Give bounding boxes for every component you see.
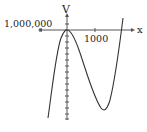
chart: V x 1,000,000 1000 [0,0,147,132]
x-axis-label: x [137,24,143,35]
x-axis-right-arrow-icon [131,28,135,32]
y-tick-label: 1,000,000 [4,18,52,29]
y-axis-label: V [61,3,71,16]
x-tick-label: 1000 [84,33,108,44]
